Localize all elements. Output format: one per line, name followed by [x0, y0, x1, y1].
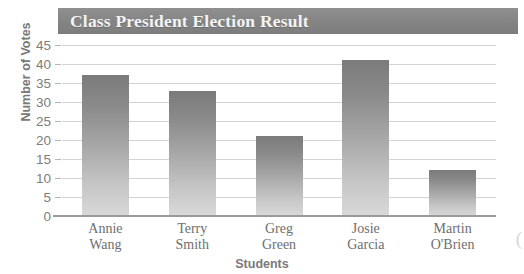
y-axis-tick-label: 45: [17, 38, 51, 53]
x-tick-line-1: Martin: [434, 221, 472, 236]
x-tick-line-2: O'Brien: [403, 237, 503, 253]
y-axis-tick-label: 10: [17, 171, 51, 186]
x-tick-line-1: Josie: [352, 221, 380, 236]
y-axis-tick-mark: [55, 64, 61, 65]
x-tick-line-2: Green: [229, 237, 329, 253]
bar: [256, 136, 303, 216]
cropped-edge-glyph: (: [516, 228, 522, 250]
x-tick-line-1: Greg: [265, 221, 293, 236]
x-axis-line: [53, 215, 496, 217]
chart-title-banner: Class President Election Result: [58, 8, 518, 34]
x-tick-line-2: Garcia: [316, 237, 416, 253]
x-axis-tick-label: MartinO'Brien: [403, 221, 503, 253]
gridline: [62, 45, 496, 46]
bar: [429, 170, 476, 216]
y-axis-tick-mark: [55, 178, 61, 179]
x-tick-line-2: Wang: [55, 237, 155, 253]
y-axis-tick-label: 35: [17, 76, 51, 91]
y-axis-tick-mark: [55, 102, 61, 103]
y-axis-tick-label: 20: [17, 133, 51, 148]
y-axis-tick-label: 5: [17, 190, 51, 205]
bar: [169, 91, 216, 216]
x-tick-line-1: Terry: [177, 221, 207, 236]
chart-title: Class President Election Result: [70, 11, 309, 32]
y-axis-tick-mark: [55, 83, 61, 84]
x-axis-tick-label: TerrySmith: [142, 221, 242, 253]
y-axis-tick-label: 0: [17, 209, 51, 224]
y-axis-tick-mark: [55, 121, 61, 122]
y-axis-tick-label: 15: [17, 152, 51, 167]
x-tick-line-2: Smith: [142, 237, 242, 253]
y-axis-tick-label: 25: [17, 114, 51, 129]
bar-chart-figure: Class President Election Result Number o…: [0, 0, 524, 274]
y-axis-tick-mark: [55, 197, 61, 198]
gridline: [62, 64, 496, 65]
plot-area: 454035302520151050: [62, 45, 496, 216]
y-axis-tick-mark: [55, 140, 61, 141]
y-axis-tick-mark: [55, 45, 61, 46]
x-axis-tick-label: GregGreen: [229, 221, 329, 253]
x-tick-line-1: Annie: [88, 221, 122, 236]
x-axis-title: Students: [0, 257, 524, 271]
x-axis-tick-label: AnnieWang: [55, 221, 155, 253]
y-axis-tick-label: 40: [17, 57, 51, 72]
y-axis-tick-label: 30: [17, 95, 51, 110]
x-axis-tick-label: JosieGarcia: [316, 221, 416, 253]
y-axis-tick-mark: [55, 159, 61, 160]
bar: [342, 60, 389, 216]
bar: [82, 75, 129, 216]
